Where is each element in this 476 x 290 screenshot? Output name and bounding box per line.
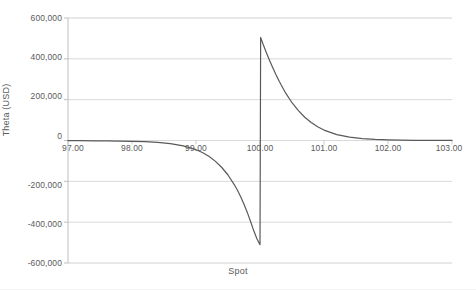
- x-axis-title: Spot: [0, 266, 476, 276]
- y-axis-title: Theta (USD): [1, 60, 11, 160]
- y-tick-label: 0: [57, 131, 62, 141]
- y-tick-label: -200,000: [28, 180, 62, 190]
- chart-canvas: 600,000 400,000 200,000 0 -200,000 -400,…: [0, 0, 476, 290]
- y-tick-label: 200,000: [31, 91, 62, 101]
- y-tick-label: -400,000: [28, 219, 62, 229]
- theta-series-line: [68, 18, 452, 263]
- y-tick-label: 600,000: [31, 13, 62, 23]
- y-tick-label: 400,000: [31, 52, 62, 62]
- plot-area: [68, 18, 452, 263]
